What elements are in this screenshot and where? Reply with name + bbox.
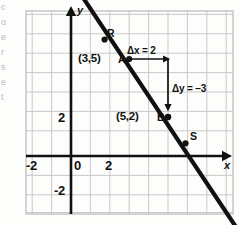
point-marker-B [165,114,172,121]
edge-artifact-char: e [0,30,14,45]
edge-artifact-char: c [0,0,14,15]
point-coord-A: (3,5) [78,53,101,65]
delta-x-label: Δx = 2 [127,46,156,56]
coordinate-graph-figure: y x 0 -2 2 2 -2 R (3,5) A (5,2) B S Δx =… [0,0,240,225]
point-label-S: S [190,131,197,142]
edge-artifact-char: t [0,90,14,105]
origin-label: 0 [74,159,81,172]
edge-artifact-char: e [0,75,14,90]
delta-y-arrow [164,59,171,111]
page-edge-artifacts: c o e r s e t [0,0,14,225]
y-tick-label-neg2: -2 [54,184,65,197]
point-marker-A [126,56,132,62]
point-coord-B: (5,2) [116,111,139,123]
y-axis [66,6,76,214]
edge-artifact-char: r [0,45,14,60]
delta-x-arrow [129,55,170,62]
point-label-A: A [118,54,126,65]
point-label-R: R [107,28,115,39]
y-tick-label-2: 2 [58,111,65,124]
edge-artifact-char: s [0,60,14,75]
point-label-B: B [157,112,165,123]
point-marker-S [182,140,188,146]
x-axis-label: x [224,160,230,171]
delta-y-label: Δy = −3 [172,84,206,94]
y-axis-label: y [77,5,83,16]
x-tick-label-neg2: -2 [26,159,37,172]
edge-artifact-char: o [0,15,14,30]
x-tick-label-2: 2 [105,159,112,172]
